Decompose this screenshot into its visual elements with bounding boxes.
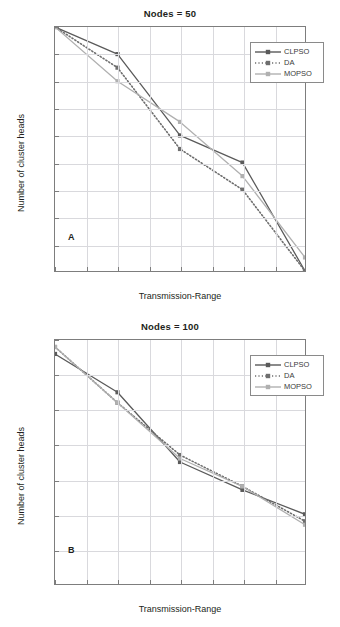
gridline-vertical	[244, 340, 245, 584]
x-tick-mark	[276, 267, 277, 271]
y-tick-mark	[55, 218, 59, 219]
gridline-vertical	[118, 27, 119, 271]
x-tick-mark	[276, 580, 277, 584]
y-tick-mark	[55, 246, 59, 247]
chart-panel-a: Nodes = 50 23456789103234363840424446485…	[0, 0, 340, 313]
legend-item-mopso[interactable]: MOPSO	[254, 68, 319, 79]
legend-label-mopso: MOPSO	[284, 69, 312, 78]
y-tick-mark	[55, 375, 59, 376]
legend-item-clpso[interactable]: CLPSO	[254, 359, 319, 370]
gridline-vertical	[213, 340, 214, 584]
y-tick-mark	[55, 54, 59, 55]
data-point-marker	[303, 523, 306, 527]
legend-swatch-clpso	[254, 360, 282, 370]
chart-panel-b: Nodes = 100 234567891030405060708090100 …	[0, 313, 340, 626]
y-tick-mark	[55, 109, 59, 110]
gridline-horizontal	[55, 191, 305, 192]
panel-b-letter: B	[68, 545, 75, 555]
gridline-vertical	[150, 27, 151, 271]
y-tick-mark	[55, 191, 59, 192]
panel-a-x-axis-label: Transmission-Range	[54, 291, 306, 301]
x-tick-mark	[118, 580, 119, 584]
data-point-marker	[54, 352, 57, 356]
figure-container: Nodes = 50 23456789103234363840424446485…	[0, 0, 340, 627]
gridline-horizontal	[55, 164, 305, 165]
gridline-horizontal	[55, 410, 305, 411]
panel-a-title: Nodes = 50	[0, 8, 340, 19]
legend-label-mopso: MOPSO	[284, 382, 312, 391]
legend-label-da: DA	[284, 58, 294, 67]
y-tick-mark	[55, 481, 59, 482]
gridline-vertical	[118, 340, 119, 584]
gridline-horizontal	[55, 481, 305, 482]
y-tick-mark	[55, 340, 59, 341]
legend-label-da: DA	[284, 371, 294, 380]
gridline-horizontal	[55, 516, 305, 517]
x-tick-mark	[244, 267, 245, 271]
y-tick-mark	[55, 445, 59, 446]
y-tick-mark	[55, 136, 59, 137]
legend-swatch-mopso	[254, 69, 282, 79]
x-tick-mark	[55, 267, 56, 271]
gridline-vertical	[244, 27, 245, 271]
legend-item-clpso[interactable]: CLPSO	[254, 46, 319, 57]
x-tick-mark	[213, 267, 214, 271]
x-tick-mark	[213, 580, 214, 584]
gridline-vertical	[181, 27, 182, 271]
panel-b-y-axis-label: Number of cluster heads	[16, 427, 26, 525]
y-tick-mark	[55, 82, 59, 83]
x-tick-mark	[150, 267, 151, 271]
panel-b-title: Nodes = 100	[0, 321, 340, 332]
gridline-vertical	[150, 340, 151, 584]
legend-swatch-mopso	[254, 382, 282, 392]
legend-label-clpso: CLPSO	[284, 47, 309, 56]
gridline-vertical	[213, 27, 214, 271]
y-tick-mark	[55, 551, 59, 552]
gridline-horizontal	[55, 218, 305, 219]
gridline-horizontal	[55, 445, 305, 446]
legend-swatch-clpso	[254, 47, 282, 57]
x-tick-mark	[181, 580, 182, 584]
gridline-vertical	[87, 340, 88, 584]
panel-a-letter: A	[68, 232, 75, 242]
x-tick-mark	[181, 267, 182, 271]
gridline-horizontal	[55, 246, 305, 247]
legend-swatch-da	[254, 58, 282, 68]
data-point-marker	[303, 269, 306, 272]
legend-b: CLPSODAMOPSO	[250, 355, 324, 396]
y-tick-mark	[55, 516, 59, 517]
gridline-horizontal	[55, 136, 305, 137]
y-tick-mark	[55, 27, 59, 28]
legend-item-da[interactable]: DA	[254, 57, 319, 68]
data-point-marker	[54, 345, 57, 349]
legend-swatch-da	[254, 371, 282, 381]
x-tick-mark	[87, 580, 88, 584]
x-tick-mark	[150, 580, 151, 584]
legend-item-da[interactable]: DA	[254, 370, 319, 381]
x-tick-mark	[87, 267, 88, 271]
x-tick-mark	[244, 580, 245, 584]
legend-a: CLPSODAMOPSO	[250, 42, 324, 83]
y-tick-mark	[55, 410, 59, 411]
panel-a-y-axis-label: Number of cluster heads	[16, 114, 26, 212]
gridline-vertical	[181, 340, 182, 584]
panel-b-x-axis-label: Transmission-Range	[54, 604, 306, 614]
x-tick-mark	[118, 267, 119, 271]
data-point-marker	[303, 255, 306, 259]
legend-label-clpso: CLPSO	[284, 360, 309, 369]
gridline-horizontal	[55, 551, 305, 552]
legend-item-mopso[interactable]: MOPSO	[254, 381, 319, 392]
gridline-vertical	[87, 27, 88, 271]
y-tick-mark	[55, 164, 59, 165]
x-tick-mark	[55, 580, 56, 584]
gridline-horizontal	[55, 109, 305, 110]
